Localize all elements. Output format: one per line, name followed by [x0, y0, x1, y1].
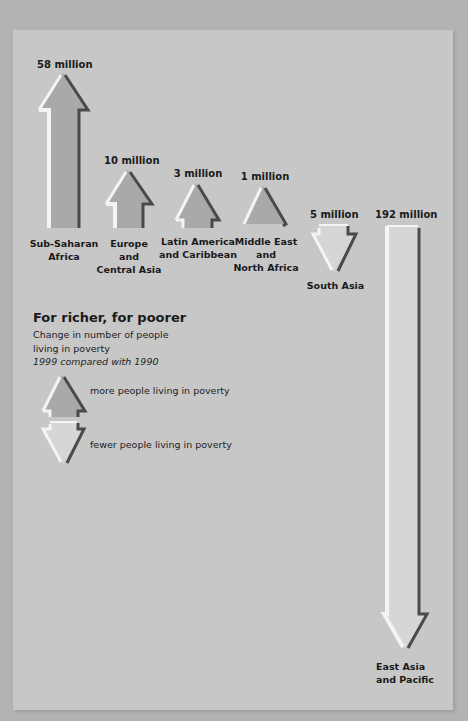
sa-line1: South Asia	[303, 279, 368, 292]
category-label-ssa: Sub-Saharan Africa	[24, 237, 104, 263]
value-label-mena: 1 million	[240, 171, 290, 182]
category-label-sa: South Asia	[303, 279, 368, 292]
value-label-sa: 5 million	[310, 209, 358, 220]
chart-title: For richer, for poorer	[33, 310, 186, 325]
subtitle-line2: living in poverty	[33, 342, 169, 356]
legend-down-arrow-icon	[42, 422, 86, 466]
up-arrow-icon	[105, 170, 153, 230]
eca-line3: Central Asia	[94, 263, 164, 276]
value-label-eap: 192 million	[375, 209, 435, 220]
mena-line1: Middle East	[226, 235, 306, 248]
up-arrow-icon	[243, 186, 288, 230]
chart-subtitle: Change in number of people living in pov…	[33, 328, 169, 369]
down-arrow-icon	[312, 225, 358, 275]
subtitle-note: 1999 compared with 1990	[33, 355, 169, 369]
mena-line2: and	[226, 248, 306, 261]
category-label-eca: Europe and Central Asia	[94, 237, 164, 276]
up-arrow-icon	[38, 73, 90, 230]
value-label-lac: 3 million	[173, 168, 223, 179]
category-label-mena: Middle East and North Africa	[226, 235, 306, 274]
up-arrow-icon	[175, 183, 221, 230]
ssa-line2: Africa	[24, 250, 104, 263]
eca-line1: Europe	[94, 237, 164, 250]
mena-line3: North Africa	[226, 261, 306, 274]
category-label-eap: East Asia and Pacific	[376, 660, 440, 686]
legend-down-label: fewer people living in poverty	[90, 439, 232, 450]
down-arrow-icon	[383, 226, 429, 651]
legend-up-arrow-icon	[42, 375, 86, 419]
eca-line2: and	[94, 250, 164, 263]
value-label-ssa: 58 million	[37, 59, 89, 70]
value-label-eca: 10 million	[104, 155, 154, 166]
eap-line1: East Asia	[376, 660, 440, 673]
ssa-line1: Sub-Saharan	[24, 237, 104, 250]
legend-up-label: more people living in poverty	[90, 385, 230, 396]
eap-line2: and Pacific	[376, 673, 440, 686]
subtitle-line1: Change in number of people	[33, 328, 169, 342]
